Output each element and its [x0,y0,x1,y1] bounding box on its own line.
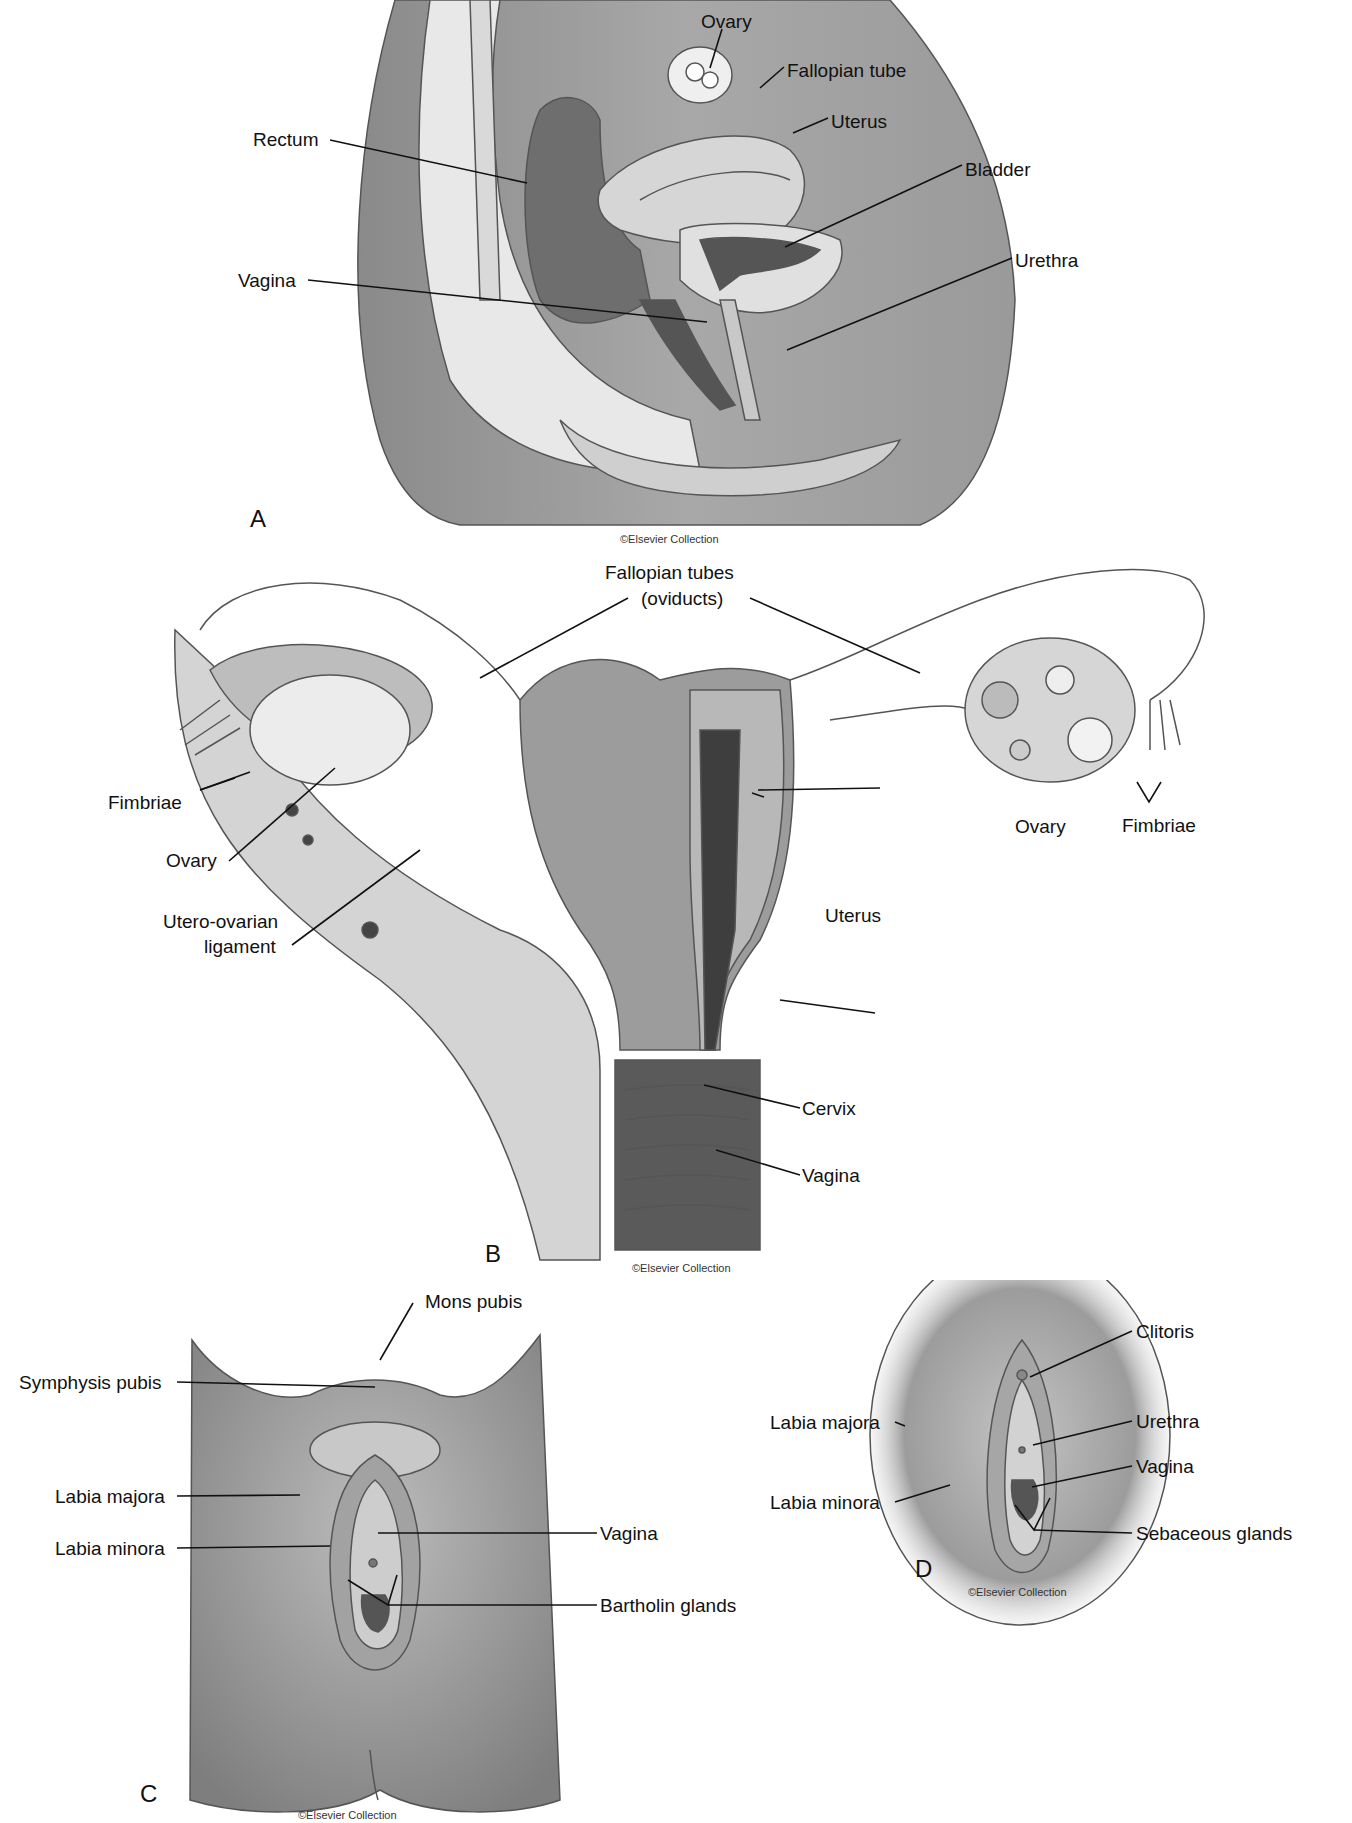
panel-a-leader-lines [0,0,1352,550]
credit-c: ©Elsevier Collection [298,1809,397,1821]
label-ovary-right: Ovary [1015,817,1066,836]
label-fimbriae-left: Fimbriae [108,793,182,812]
label-ovary-left: Ovary [166,851,217,870]
label-labia-minora: Labia minora [770,1493,880,1512]
label-urethra: Urethra [1136,1412,1199,1431]
label-utero-ovarian-line1: Utero-ovarian [163,912,278,931]
label-mons-pubis: Mons pubis [425,1292,522,1311]
panel-letter-b: B [485,1240,501,1268]
panel-c-external-genitalia: Mons pubis Symphysis pubis Labia majora … [0,1280,800,1823]
label-uterus: Uterus [831,112,887,131]
panel-b-uterus-frontal: Fallopian tubes (oviducts) Fimbriae Ovar… [0,550,1352,1280]
panel-letter-d: D [915,1555,932,1583]
label-vagina: Vagina [802,1166,860,1185]
credit-a: ©Elsevier Collection [620,533,719,545]
label-vagina: Vagina [1136,1457,1194,1476]
label-clitoris: Clitoris [1136,1322,1194,1341]
label-utero-ovarian-line2: ligament [204,937,276,956]
label-bartholin-glands: Bartholin glands [600,1596,736,1615]
label-ovary: Ovary [701,12,752,31]
panel-d-vulva-detail: Clitoris Labia majora Urethra Vagina Lab… [750,1280,1352,1660]
label-labia-majora: Labia majora [770,1413,880,1432]
label-rectum: Rectum [253,130,318,149]
label-uterus: Uterus [825,906,881,925]
panel-d-leader-lines [750,1280,1352,1660]
credit-b: ©Elsevier Collection [632,1262,731,1274]
label-labia-minora: Labia minora [55,1539,165,1558]
panel-letter-c: C [140,1780,157,1808]
label-fallopian-tube: Fallopian tube [787,61,906,80]
label-fallopian-tubes: Fallopian tubes [605,563,734,582]
panel-letter-a: A [250,505,266,533]
credit-d: ©Elsevier Collection [968,1586,1067,1598]
label-vagina: Vagina [238,271,296,290]
label-bladder: Bladder [965,160,1031,179]
label-fimbriae-right: Fimbriae [1122,816,1196,835]
label-sebaceous-glands: Sebaceous glands [1136,1524,1292,1543]
panel-a-sagittal-section: Ovary Fallopian tube Uterus Bladder Uret… [0,0,1352,550]
label-symphysis-pubis: Symphysis pubis [19,1373,162,1392]
label-vagina: Vagina [600,1524,658,1543]
label-oviducts: (oviducts) [641,589,723,608]
label-labia-majora: Labia majora [55,1487,165,1506]
label-urethra: Urethra [1015,251,1078,270]
label-cervix: Cervix [802,1099,856,1118]
